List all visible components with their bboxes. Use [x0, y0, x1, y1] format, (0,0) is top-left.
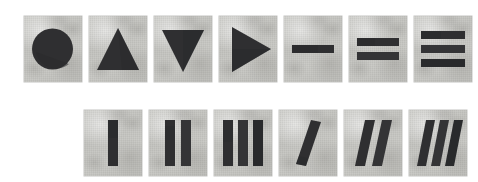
- vertical-bar-2-icon: [149, 110, 207, 176]
- top-row: [24, 16, 472, 82]
- card-bar-v-3[interactable]: [214, 110, 272, 176]
- card-bar-h-1[interactable]: [284, 16, 342, 82]
- symbol-card-board: [0, 0, 478, 182]
- card-bar-v-2[interactable]: [149, 110, 207, 176]
- card-triangle-up[interactable]: [89, 16, 147, 82]
- card-triangle-right[interactable]: [219, 16, 277, 82]
- triangle-up-icon: [89, 16, 147, 82]
- card-circle[interactable]: [24, 16, 82, 82]
- card-bar-v-1[interactable]: [84, 110, 142, 176]
- card-bar-d-2[interactable]: [344, 110, 402, 176]
- card-bar-h-3[interactable]: [414, 16, 472, 82]
- vertical-bar-1-icon: [84, 110, 142, 176]
- card-bar-d-1[interactable]: [279, 110, 337, 176]
- horizontal-bar-2-icon: [349, 16, 407, 82]
- card-bar-d-3[interactable]: [409, 110, 467, 176]
- diagonal-bar-3-icon: [409, 110, 467, 176]
- triangle-right-icon: [219, 16, 277, 82]
- triangle-down-icon: [154, 16, 212, 82]
- diagonal-bar-2-icon: [344, 110, 402, 176]
- circle-icon: [24, 16, 82, 82]
- horizontal-bar-3-icon: [414, 16, 472, 82]
- horizontal-bar-1-icon: [284, 16, 342, 82]
- diagonal-bar-1-icon: [279, 110, 337, 176]
- card-bar-h-2[interactable]: [349, 16, 407, 82]
- bottom-row: [84, 110, 467, 176]
- vertical-bar-3-icon: [214, 110, 272, 176]
- card-triangle-down[interactable]: [154, 16, 212, 82]
